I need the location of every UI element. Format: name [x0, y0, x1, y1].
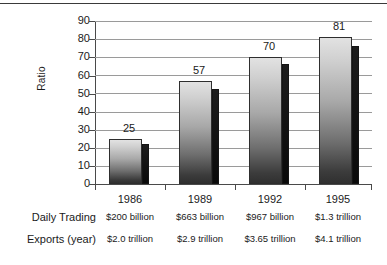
x-category-label-1989: 1989: [165, 193, 235, 205]
bar-value-label-1989: 57: [173, 65, 225, 76]
y-tick-label-50: 50: [56, 88, 90, 99]
table-cell-exports-1992: $3.65 trillion: [235, 233, 305, 245]
x-tickmark-0: [95, 185, 96, 190]
y-tick-label-10: 10: [56, 160, 90, 171]
x-tickmark-3: [305, 185, 306, 190]
data-table: Daily Trading $200 billion $663 billion …: [0, 210, 387, 254]
y-tick-label-30: 30: [56, 124, 90, 135]
x-axis-line: [95, 184, 372, 185]
table-row-exports: Exports (year) $2.0 trillion $2.9 trilli…: [0, 232, 387, 254]
x-tickmark-4: [371, 185, 372, 190]
y-tick-label-60: 60: [56, 70, 90, 81]
table-cell-daily-trading-1989: $663 billion: [165, 211, 235, 223]
table-cell-daily-trading-1986: $200 billion: [95, 211, 165, 223]
x-category-label-1986: 1986: [95, 193, 165, 205]
chart-figure: Ratio 90 80 70 60 50 40 30 20 10 0: [0, 0, 387, 265]
y-tick-label-80: 80: [56, 33, 90, 44]
y-tick-label-90: 90: [56, 15, 90, 26]
bar-face-1989[interactable]: [179, 81, 212, 184]
y-tick-label-40: 40: [56, 106, 90, 117]
table-row-header-exports: Exports (year): [4, 232, 96, 246]
table-row-daily-trading: Daily Trading $200 billion $663 billion …: [0, 210, 387, 232]
x-tickmark-1: [165, 185, 166, 190]
table-cell-daily-trading-1995: $1.3 trillion: [303, 211, 373, 223]
table-cell-exports-1995: $4.1 trillion: [303, 233, 373, 245]
plot-area-wrapper: Ratio 90 80 70 60 50 40 30 20 10 0: [0, 0, 387, 200]
x-category-label-1995: 1995: [303, 193, 373, 205]
table-row-header-daily-trading: Daily Trading: [4, 210, 96, 224]
bar-side-1995: [352, 46, 359, 184]
table-cell-exports-1989: $2.9 trillion: [165, 233, 235, 245]
bar-side-1986: [142, 144, 149, 184]
x-tickmark-2: [235, 185, 236, 190]
table-cell-daily-trading-1992: $967 billion: [235, 211, 305, 223]
table-cell-exports-1986: $2.0 trillion: [95, 233, 165, 245]
y-axis-title: Ratio: [36, 34, 47, 124]
y-tick-label-20: 20: [56, 142, 90, 153]
y-tick-label-0: 0: [56, 178, 90, 189]
y-tick-label-70: 70: [56, 51, 90, 62]
x-category-label-1992: 1992: [235, 193, 305, 205]
bar-side-1992: [282, 64, 289, 184]
bar-side-1989: [212, 89, 219, 184]
bar-value-label-1986: 25: [103, 123, 155, 134]
bar-value-label-1992: 70: [243, 41, 295, 52]
bar-face-1995[interactable]: [319, 37, 352, 184]
bar-value-label-1995: 81: [313, 21, 365, 32]
bar-face-1986[interactable]: [109, 139, 142, 184]
bar-face-1992[interactable]: [249, 57, 282, 184]
y-axis-tick-labels: 90 80 70 60 50 40 30 20 10 0: [52, 0, 90, 200]
plot-area: 25 57 70 81: [95, 21, 372, 184]
